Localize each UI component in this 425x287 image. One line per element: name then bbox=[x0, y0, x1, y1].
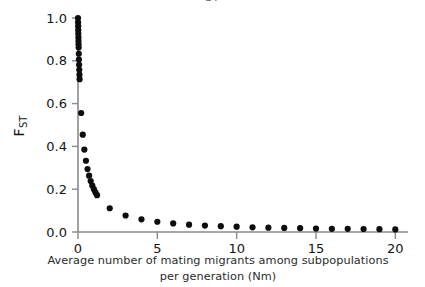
data-point bbox=[107, 205, 113, 211]
data-point bbox=[81, 147, 87, 153]
data-point bbox=[297, 225, 303, 231]
data-point bbox=[123, 212, 129, 218]
data-point bbox=[78, 110, 84, 116]
data-point bbox=[218, 223, 224, 229]
data-point bbox=[313, 225, 319, 231]
y-axis-label-wrapper: FST bbox=[9, 96, 31, 156]
x-axis-caption-line-1: Average number of mating migrants among … bbox=[28, 253, 408, 269]
data-point bbox=[265, 225, 271, 231]
data-point bbox=[202, 222, 208, 228]
y-tick-label: 0.4 bbox=[46, 139, 67, 154]
data-point bbox=[154, 219, 160, 225]
data-point bbox=[392, 226, 398, 232]
data-point bbox=[234, 224, 240, 230]
y-tick-label: 0.2 bbox=[46, 182, 67, 197]
data-point bbox=[83, 158, 89, 164]
data-point bbox=[329, 226, 335, 232]
data-point bbox=[76, 51, 82, 57]
data-point bbox=[360, 226, 366, 232]
data-point bbox=[376, 226, 382, 232]
y-tick-label: 1.0 bbox=[46, 11, 67, 26]
data-point bbox=[186, 222, 192, 228]
data-point bbox=[249, 224, 255, 230]
data-point bbox=[170, 220, 176, 226]
data-point bbox=[76, 76, 82, 82]
data-point bbox=[281, 225, 287, 231]
data-point bbox=[76, 56, 82, 62]
y-tick-label: 0.8 bbox=[46, 53, 67, 68]
y-tick-label: 0.0 bbox=[46, 225, 67, 240]
data-point bbox=[80, 132, 86, 138]
data-point bbox=[84, 166, 90, 172]
scatter-plot-svg: 0.00.20.40.60.81.0 05101520 bbox=[0, 0, 425, 287]
y-axis-label-subscript: ST bbox=[18, 116, 29, 128]
data-point bbox=[345, 226, 351, 232]
data-point bbox=[86, 173, 92, 179]
axes-group bbox=[78, 18, 408, 232]
figure-container: ST 0.00.20.40.60.81.0 05101520 FST Avera… bbox=[0, 0, 425, 287]
y-axis-label: FST bbox=[11, 116, 30, 137]
data-point bbox=[138, 216, 144, 222]
y-tick-label: 0.6 bbox=[46, 96, 67, 111]
data-point bbox=[76, 44, 82, 50]
y-axis-label-main: F bbox=[11, 128, 27, 136]
x-axis-caption: Average number of mating migrants among … bbox=[28, 253, 408, 285]
x-axis-caption-line-2: per generation (Nm) bbox=[28, 269, 408, 285]
data-point-group bbox=[75, 15, 399, 233]
y-tick-group: 0.00.20.40.60.81.0 bbox=[46, 11, 78, 240]
data-point bbox=[94, 192, 100, 198]
